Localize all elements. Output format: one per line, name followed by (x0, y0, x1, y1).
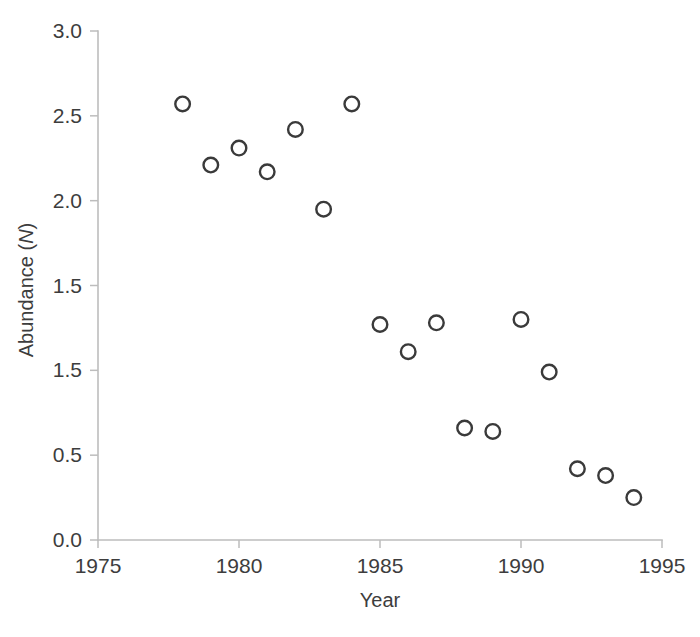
x-tick-label: 1975 (75, 554, 122, 577)
x-tick-label: 1985 (357, 554, 404, 577)
y-tick-label: 2.5 (53, 104, 82, 127)
y-tick-label: 3.0 (53, 19, 82, 42)
y-tick-label: 0.0 (53, 528, 82, 551)
axes-group (98, 31, 662, 540)
data-point-marker (627, 490, 642, 505)
x-tick-label: 1980 (216, 554, 263, 577)
data-point-marker (204, 158, 219, 173)
y-axis-title-paren: ) (15, 223, 37, 230)
data-point-marker (345, 97, 360, 112)
y-tick-group: 0.00.51.51.52.02.53.0 (53, 19, 98, 551)
y-tick-label: 0.5 (53, 443, 82, 466)
data-point-marker (175, 97, 190, 112)
data-point-marker (429, 316, 444, 331)
y-axis-title-symbol: N (15, 229, 37, 244)
data-point-marker (401, 344, 416, 359)
data-point-marker (486, 424, 501, 439)
y-tick-label: 1.5 (53, 358, 82, 381)
data-point-marker (288, 122, 303, 137)
x-tick-label: 1995 (639, 554, 686, 577)
data-point-marker (260, 165, 275, 180)
y-axis-title: Abundance (N) (15, 223, 37, 358)
data-point-marker (457, 421, 472, 436)
data-point-marker (232, 141, 247, 156)
data-point-marker (316, 202, 331, 217)
data-point-marker (570, 461, 585, 476)
y-axis-title-text: Abundance ( (15, 244, 37, 358)
data-point-marker (542, 365, 557, 380)
x-tick-group: 19751980198519901995 (75, 540, 686, 577)
y-tick-label: 1.5 (53, 274, 82, 297)
data-points-group (175, 97, 641, 505)
x-tick-label: 1990 (498, 554, 545, 577)
data-point-marker (373, 317, 388, 332)
scatter-chart-figure: 0.00.51.51.52.02.53.0 197519801985199019… (0, 0, 700, 637)
data-point-marker (598, 468, 613, 483)
x-axis-title: Year (360, 589, 401, 611)
data-point-marker (514, 312, 529, 327)
plot-canvas: 0.00.51.51.52.02.53.0 197519801985199019… (0, 0, 700, 637)
y-tick-label: 2.0 (53, 189, 82, 212)
